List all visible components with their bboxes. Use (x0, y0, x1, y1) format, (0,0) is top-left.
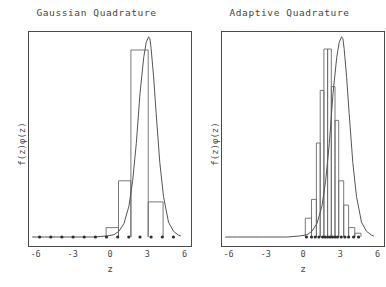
xtick-gaussian-3: 3 (145, 249, 150, 259)
plot-area-adaptive (221, 31, 385, 247)
plot-svg-adaptive (221, 31, 385, 247)
integrand-curve-gaussian (32, 37, 181, 237)
step-bars-adaptive (305, 49, 361, 237)
y-axis-label-gaussian: f(z)φ(z) (17, 122, 27, 165)
y-axis-label-adaptive: f(z)φ(z) (210, 122, 220, 165)
xtick-adaptive-4: 6 (375, 249, 380, 259)
x-axis-label-adaptive: z (221, 263, 385, 274)
plot-area-gaussian (28, 31, 192, 247)
xtick-gaussian-0: -6 (30, 249, 40, 259)
xtick-adaptive-0: -6 (223, 249, 233, 259)
panel-gaussian-quadrature: Gaussian Quadrature f(z)φ(z) (0, 0, 193, 287)
y-axis-label-wrap-gaussian: f(z)φ(z) (0, 0, 24, 287)
xtick-adaptive-2: 0 (300, 249, 305, 259)
panel-title-gaussian: Gaussian Quadrature (0, 7, 193, 18)
xtick-gaussian-4: 6 (182, 249, 187, 259)
quadrature-nodes-adaptive (305, 235, 360, 238)
step-bars-gaussian (106, 50, 163, 237)
integrand-curve-adaptive (225, 37, 374, 237)
xtick-adaptive-3: 3 (338, 249, 343, 259)
panel-adaptive-quadrature: Adaptive Quadrature f(z)φ(z) (193, 0, 386, 287)
xtick-gaussian-1: -3 (68, 249, 78, 259)
xtick-gaussian-2: 0 (107, 249, 112, 259)
plot-svg-gaussian (28, 31, 192, 247)
quadrature-comparison-figure: Gaussian Quadrature f(z)φ(z) (0, 0, 386, 287)
x-axis-label-gaussian: z (28, 263, 192, 274)
xtick-adaptive-1: -3 (261, 249, 271, 259)
y-axis-label-wrap-adaptive: f(z)φ(z) (191, 0, 217, 287)
panel-title-adaptive: Adaptive Quadrature (193, 7, 386, 18)
